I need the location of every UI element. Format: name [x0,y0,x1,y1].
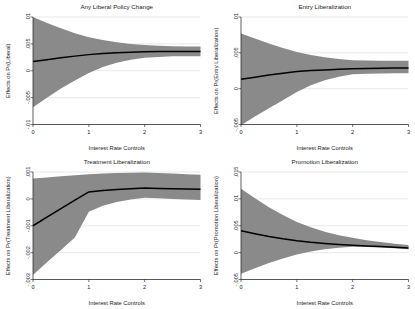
figure-container: Any Liberal Policy Change0123-.01-.0050.… [0,0,415,309]
y-tick-label: -.01 [25,120,31,130]
y-tick-label: .01 [233,194,239,202]
confidence-interval-band [241,188,409,273]
x-tick-label: 2 [351,129,354,135]
y-tick-label: 0 [233,251,239,254]
confidence-interval-band [241,33,409,125]
x-tick-label: 3 [406,129,409,135]
y-tick-label: -.001 [25,219,31,232]
confidence-interval-band [33,172,201,274]
y-tick-label: .01 [233,13,239,21]
chart-svg: Promotion Liberalization0123-.0050.005.0… [208,155,415,309]
x-tick-label: 0 [239,129,242,135]
y-tick-label: -.005 [233,273,239,286]
x-tick-label: 1 [87,283,90,289]
chart-svg: Any Liberal Policy Change0123-.01-.0050.… [0,0,208,155]
y-axis-title: Effects on Pr(Promotion Liberalization) [213,176,219,275]
y-tick-label: -.005 [233,118,239,131]
y-axis-title: Effects on Pr(Liberal) [5,44,11,98]
y-axis-title: Effects on Pr(Treatment Liberalization) [5,176,11,275]
y-tick-label: .001 [25,166,31,177]
x-axis-title: Interest Rate Controls [89,145,145,151]
x-tick-label: 1 [87,129,90,135]
panel-promotion-liberalization: Promotion Liberalization0123-.0050.005.0… [208,155,415,309]
x-tick-label: 1 [295,129,298,135]
confidence-interval-band [33,17,201,107]
y-tick-label: .01 [25,13,31,21]
chart-svg: Entry Liberalization0123-.0050.005.01Int… [208,0,415,155]
y-tick-label: .005 [233,220,239,231]
panel-entry-liberalization: Entry Liberalization0123-.0050.005.01Int… [208,0,415,155]
x-tick-label: 1 [295,283,298,289]
y-tick-label: .005 [233,47,239,58]
y-tick-label: -.003 [25,273,31,286]
x-tick-label: 0 [31,283,34,289]
x-axis-title: Interest Rate Controls [296,299,352,305]
x-tick-label: 0 [239,283,242,289]
x-tick-label: 3 [406,283,409,289]
y-tick-label: .015 [233,166,239,177]
x-tick-label: 2 [351,283,354,289]
x-tick-label: 2 [143,283,146,289]
y-tick-label: -.002 [25,246,31,259]
y-tick-label: 0 [25,69,31,72]
panel-any-liberal-policy-change: Any Liberal Policy Change0123-.01-.0050.… [0,0,208,155]
panel-treatment-liberalization: Treatment Liberalization0123-.003-.002-.… [0,155,208,309]
y-axis-title: Effects on Pr(Entry Liberalization) [213,28,219,114]
x-axis-title: Interest Rate Controls [89,299,145,305]
x-axis-title: Interest Rate Controls [296,145,352,151]
panel-title: Treatment Liberalization [84,158,151,165]
panel-title: Promotion Liberalization [291,158,358,165]
y-tick-label: 0 [25,197,31,200]
y-tick-label: .005 [25,38,31,49]
y-tick-label: -.005 [25,91,31,104]
x-tick-label: 2 [143,129,146,135]
x-tick-label: 3 [199,283,202,289]
panel-title: Any Liberal Policy Change [80,3,153,10]
panel-title: Entry Liberalization [298,3,351,10]
chart-svg: Treatment Liberalization0123-.003-.002-.… [0,155,208,309]
x-tick-label: 0 [31,129,34,135]
x-tick-label: 3 [199,129,202,135]
panel-grid: Any Liberal Policy Change0123-.01-.0050.… [0,0,415,309]
y-tick-label: 0 [233,87,239,90]
